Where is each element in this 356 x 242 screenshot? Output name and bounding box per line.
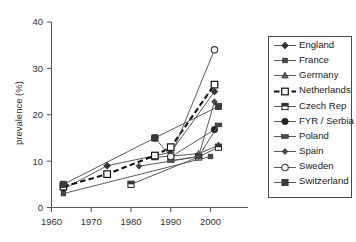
legend-label: FYR / Serbia [299, 116, 354, 126]
legend-label: Netherlands [299, 85, 351, 95]
legend-label: England [299, 40, 334, 50]
legend-label: Poland [299, 131, 329, 141]
legend-marker-icon [272, 68, 298, 81]
x-tick-label: 1990 [160, 216, 181, 227]
y-tick-label: 30 [32, 63, 43, 74]
x-tick-label: 1980 [120, 216, 141, 227]
legend-marker-icon [272, 38, 298, 51]
y-tick-label: 10 [32, 156, 43, 167]
y-tick-label: 0 [38, 202, 43, 213]
legend-marker-icon [272, 129, 298, 142]
legend-item-poland[interactable]: Poland [269, 128, 351, 143]
legend-marker-icon [272, 99, 298, 112]
legend-item-germany[interactable]: Germany [269, 67, 351, 82]
series-group [60, 47, 222, 196]
legend-item-spain[interactable]: Spain [269, 143, 351, 158]
legend-marker-icon [272, 53, 298, 66]
y-axis: 010203040 [32, 16, 51, 213]
x-tick-label: 1970 [81, 216, 102, 227]
legend-marker-icon [272, 175, 298, 188]
legend-item-switzerland[interactable]: Switzerland [269, 174, 351, 189]
legend-label: Germany [299, 70, 338, 80]
chart-figure: 010203040 19601970198019902000 prevalenc… [0, 0, 356, 242]
legend-marker-icon [272, 114, 298, 127]
x-tick-label: 1960 [41, 216, 62, 227]
x-tick-label: 2000 [200, 216, 221, 227]
legend: EnglandFranceGermanyNetherlandsCzech Rep… [268, 36, 352, 198]
legend-item-france[interactable]: France [269, 52, 351, 67]
legend-marker-icon [272, 160, 298, 173]
legend-label: Switzerland [299, 176, 349, 186]
legend-item-sweden[interactable]: Sweden [269, 159, 351, 174]
legend-label: France [299, 55, 329, 65]
legend-marker-icon [272, 144, 298, 157]
y-tick-label: 20 [32, 109, 43, 120]
x-axis: 19601970198019902000 [41, 208, 248, 228]
legend-label: Sweden [299, 161, 334, 171]
legend-item-czech-rep[interactable]: Czech Rep [269, 98, 351, 113]
legend-item-fyr-serbia[interactable]: FYR / Serbia [269, 113, 351, 128]
legend-item-england[interactable]: England [269, 37, 351, 52]
y-axis-label: prevalence (%) [13, 81, 24, 145]
legend-marker-icon [272, 84, 298, 97]
y-tick-label: 40 [32, 16, 43, 27]
legend-item-netherlands[interactable]: Netherlands [269, 83, 351, 98]
legend-label: Spain [299, 146, 324, 156]
series-england [60, 88, 218, 192]
legend-label: Czech Rep [299, 101, 346, 111]
